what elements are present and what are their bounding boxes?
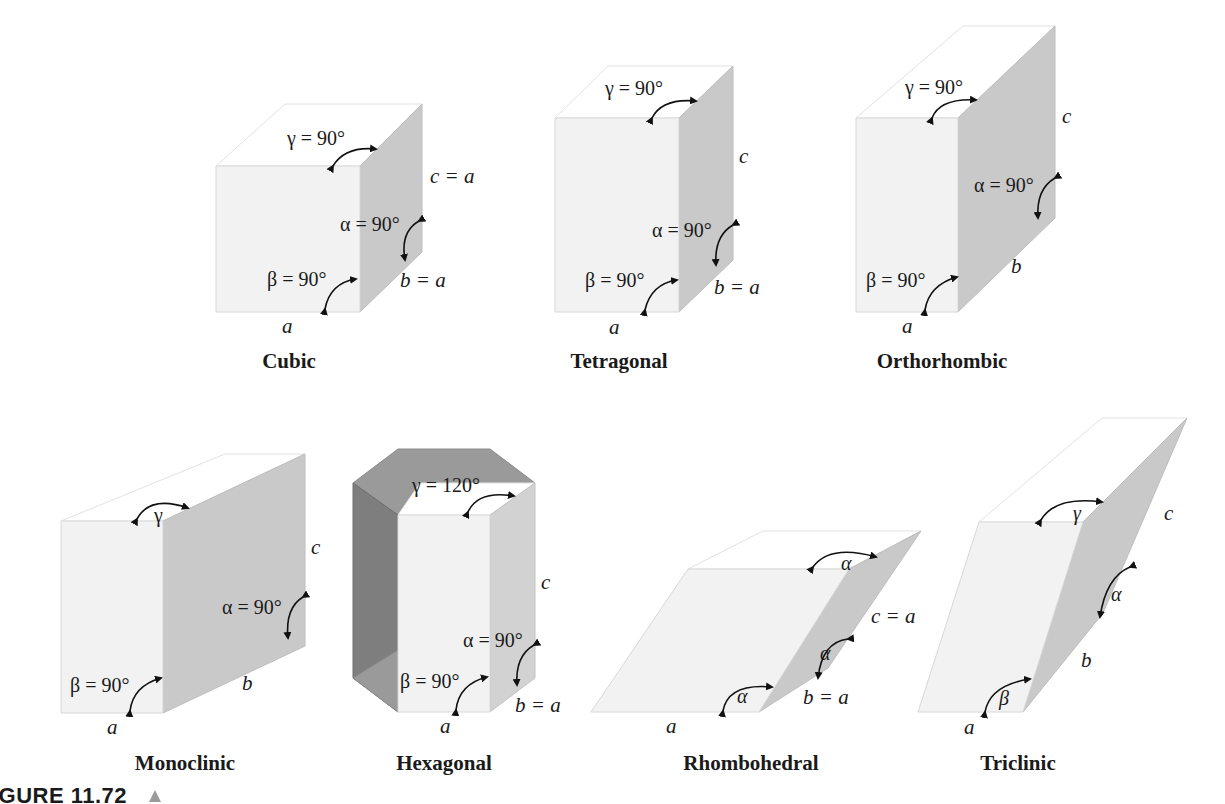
monoclinic-alpha-label: α = 90° (222, 596, 282, 618)
rhombohedral-c-label: c = a (871, 604, 916, 628)
orthorhombic-a-label: a (902, 314, 913, 338)
triclinic-b-label: b (1081, 648, 1092, 672)
tetragonal-cell: γ = 90° α = 90° β = 90° c b = a a Tetrag… (555, 66, 760, 373)
rhombohedral-a-label: a (666, 714, 677, 738)
cubic-front-face (216, 166, 360, 312)
cubic-gamma-label: γ = 90° (286, 127, 345, 150)
orthorhombic-c-label: c (1062, 104, 1072, 128)
triangle-marker-icon (149, 790, 161, 802)
hexagonal-c-label: c (541, 570, 551, 594)
rhombohedral-b-label: b = a (803, 685, 849, 709)
cubic-b-label: b = a (400, 268, 446, 292)
cubic-name: Cubic (262, 349, 316, 373)
cubic-alpha-label: α = 90° (340, 213, 400, 235)
hexagonal-cell: γ = 120° α = 90° β = 90° c b = a a Hexag… (353, 449, 561, 775)
triclinic-a-label: a (964, 715, 975, 739)
hexagonal-name: Hexagonal (396, 751, 492, 775)
rhombohedral-name: Rhombohedral (683, 751, 819, 775)
cubic-cell: γ = 90° α = 90° β = 90° c = a b = a a Cu… (216, 104, 475, 373)
tetragonal-alpha-label: α = 90° (652, 219, 712, 241)
triclinic-alpha-label: α (1111, 583, 1122, 605)
cubic-a-label: a (282, 314, 293, 338)
triclinic-beta-label: β (998, 687, 1009, 710)
tetragonal-c-label: c (739, 144, 749, 168)
rhombohedral-beta-label: α (737, 685, 748, 707)
tetragonal-name: Tetragonal (570, 349, 667, 373)
orthorhombic-name: Orthorhombic (877, 349, 1008, 373)
orthorhombic-beta-label: β = 90° (866, 269, 925, 292)
orthorhombic-cell: γ = 90° α = 90° β = 90° c b a Orthorhomb… (856, 26, 1072, 373)
crystal-systems-figure: γ = 90° α = 90° β = 90° c = a b = a a Cu… (0, 0, 1225, 804)
hexagonal-gamma-label: γ = 120° (411, 474, 480, 497)
hexagonal-alpha-label: α = 90° (463, 629, 523, 651)
hexagonal-beta-label: β = 90° (400, 670, 459, 693)
cubic-c-label: c = a (430, 164, 475, 188)
rhombohedral-cell: α α α c = a b = a a Rhombohedral (591, 531, 921, 775)
hexagonal-a-label: a (440, 714, 451, 738)
hexagonal-right-face (490, 483, 535, 712)
figure-number: FIGURE 11.72 (0, 783, 127, 804)
tetragonal-gamma-label: γ = 90° (604, 77, 663, 100)
monoclinic-c-label: c (311, 535, 321, 559)
rhombohedral-gamma-label: α (841, 552, 852, 574)
monoclinic-a-label: a (107, 715, 118, 739)
orthorhombic-b-label: b (1011, 254, 1022, 278)
triclinic-gamma-label: γ (1073, 502, 1082, 525)
figure-caption: FIGURE 11.72 (0, 783, 161, 804)
monoclinic-b-label: b (242, 671, 253, 695)
orthorhombic-alpha-label: α = 90° (974, 174, 1034, 196)
hexagonal-b-label: b = a (515, 693, 561, 717)
cubic-beta-label: β = 90° (267, 268, 326, 291)
triclinic-name: Triclinic (980, 751, 1055, 775)
monoclinic-beta-label: β = 90° (70, 674, 129, 697)
triclinic-c-label: c (1164, 501, 1174, 525)
rhombohedral-alpha-label: α (820, 642, 831, 664)
tetragonal-b-label: b = a (714, 275, 760, 299)
orthorhombic-gamma-label: γ = 90° (904, 76, 963, 99)
monoclinic-name: Monoclinic (135, 751, 235, 775)
tetragonal-a-label: a (609, 315, 620, 339)
monoclinic-gamma-label: γ (153, 504, 163, 527)
monoclinic-cell: γ α = 90° β = 90° c b a Monoclinic (61, 454, 321, 775)
tetragonal-beta-label: β = 90° (585, 269, 644, 292)
triclinic-cell: γ α β c b a Triclinic (918, 418, 1187, 775)
